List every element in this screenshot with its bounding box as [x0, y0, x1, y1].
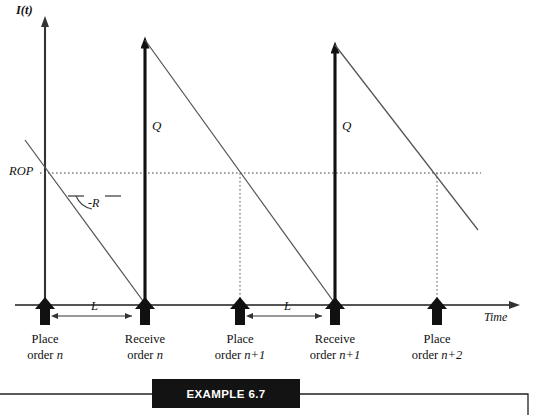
event-caption-line2: order n+1	[192, 347, 288, 363]
order-quantity-label-1: Q	[152, 119, 161, 133]
depletion-line-0	[25, 140, 146, 305]
banner-rule-right	[300, 394, 528, 415]
depletion-line-2	[335, 45, 478, 230]
y-axis-label: I(t)	[16, 4, 33, 17]
reorder-point-label: ROP	[9, 165, 33, 178]
event-caption-place-order-n: Place order n	[0, 331, 93, 364]
inventory-sawtooth-figure: I(t) ROP -R Q Q L L Time Place order n R…	[0, 0, 534, 415]
lead-time-label-1: L	[91, 300, 98, 313]
event-marker	[35, 297, 55, 325]
event-caption-line2: order n+2	[389, 347, 485, 363]
slope-label: -R	[88, 197, 99, 210]
event-caption-place-order-n-plus-1: Place order n+1	[192, 331, 288, 364]
event-marker	[135, 297, 155, 325]
event-caption-line1: Place	[226, 332, 253, 346]
event-caption-line2: order n	[97, 347, 193, 363]
event-caption-line1: Place	[31, 332, 58, 346]
event-caption-place-order-n-plus-2: Place order n+2	[389, 331, 485, 364]
order-quantity-label-2: Q	[342, 119, 351, 133]
event-marker	[230, 297, 250, 325]
lead-time-label-2: L	[284, 300, 291, 313]
x-axis-label: Time	[484, 311, 507, 324]
event-marker	[325, 297, 345, 325]
event-caption-receive-order-n: Receive order n	[97, 331, 193, 364]
event-caption-line1: Receive	[315, 332, 355, 346]
event-caption-receive-order-n-plus-1: Receive order n+1	[287, 331, 383, 364]
event-marker	[427, 297, 447, 325]
event-caption-line2: order n	[0, 347, 93, 363]
example-banner: EXAMPLE 6.7	[152, 379, 300, 408]
event-caption-line2: order n+1	[287, 347, 383, 363]
event-caption-line1: Receive	[125, 332, 165, 346]
event-caption-line1: Place	[423, 332, 450, 346]
